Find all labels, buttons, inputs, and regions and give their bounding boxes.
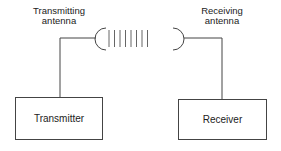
transmitting-antenna-label: Transmitting antenna xyxy=(30,6,88,26)
transmitting-antenna-label-line2: antenna xyxy=(30,16,88,26)
receiver-wire xyxy=(184,38,222,100)
receiving-antenna-label: Receiving antenna xyxy=(196,6,248,26)
transmitting-antenna-icon xyxy=(95,28,106,50)
transmitter-wire xyxy=(60,38,96,98)
signal-wave-icon xyxy=(109,30,148,47)
transmitter-label: Transmitter xyxy=(34,113,84,124)
receiving-antenna-label-line2: antenna xyxy=(196,16,248,26)
transmitter-box: Transmitter xyxy=(15,97,103,140)
receiver-label: Receiver xyxy=(203,114,242,125)
receiving-antenna-icon xyxy=(173,28,184,50)
receiver-box: Receiver xyxy=(178,99,267,140)
